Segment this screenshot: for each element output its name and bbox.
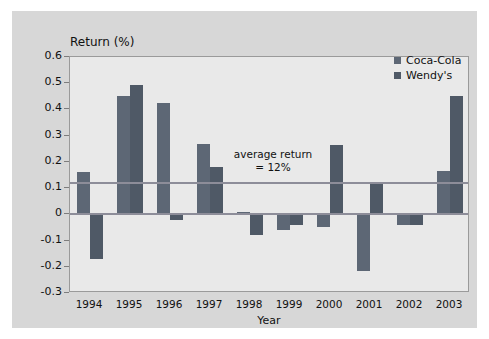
bar-coca-cola-2002	[397, 214, 410, 224]
y-axis-tick-label: -0.3	[18, 286, 62, 297]
x-axis-tick-label-1997: 1997	[189, 299, 229, 310]
bar-wendy-s-1997	[210, 167, 223, 214]
y-axis-tick-label-wrap: 0.5	[12, 76, 62, 87]
x-axis-tick-label-1996: 1996	[149, 299, 189, 310]
bar-wendy-s-1994	[90, 214, 103, 259]
legend-label: Coca-Cola	[406, 54, 461, 67]
bar-wendy-s-2003	[450, 96, 463, 214]
average-return-line	[70, 182, 468, 184]
y-axis-tick-label: 0.2	[18, 155, 62, 166]
legend-swatch-icon	[394, 57, 401, 64]
bar-wendy-s-1999	[290, 214, 303, 224]
y-axis-tick	[64, 292, 69, 293]
y-axis-tick-label-wrap: 0	[12, 207, 62, 218]
bar-coca-cola-1999	[277, 214, 290, 230]
plot-area	[70, 57, 468, 291]
bar-wendy-s-2000	[330, 145, 343, 214]
plot-frame	[69, 56, 469, 292]
annotation-line-1: average return	[220, 148, 326, 161]
y-axis-tick-label-wrap: -0.3	[12, 286, 62, 297]
y-axis-tick-label-wrap: -0.2	[12, 260, 62, 271]
y-axis-tick-label: 0	[18, 207, 62, 218]
bar-coca-cola-1995	[117, 96, 130, 214]
x-axis-tick-label-2003: 2003	[429, 299, 469, 310]
x-axis-tick-label-2001: 2001	[349, 299, 389, 310]
bar-wendy-s-1995	[130, 85, 143, 215]
x-axis-tick-label-1995: 1995	[109, 299, 149, 310]
zero-line	[70, 213, 468, 215]
bar-wendy-s-2001	[370, 183, 383, 214]
bar-wendy-s-2002	[410, 214, 423, 224]
x-axis-tick-label-2002: 2002	[389, 299, 429, 310]
x-axis-label: Year	[69, 314, 469, 327]
y-axis-label: Return (%)	[70, 35, 134, 49]
average-return-annotation: average return = 12%	[220, 148, 326, 174]
bar-coca-cola-1994	[77, 172, 90, 214]
bar-coca-cola-2000	[317, 214, 330, 227]
y-axis-tick-label-wrap: 0.3	[12, 129, 62, 140]
annotation-line-2: = 12%	[220, 161, 326, 174]
y-axis-tick-label-wrap: 0.6	[12, 50, 62, 61]
chart-legend: Coca-ColaWendy's	[394, 53, 461, 83]
legend-swatch-icon	[394, 72, 401, 79]
bar-coca-cola-1996	[157, 103, 170, 214]
chart-panel: Return (%) 0.60.50.40.30.20.10-0.1-0.2-0…	[12, 11, 477, 328]
y-axis-tick-label: -0.2	[18, 260, 62, 271]
x-axis-tick-label-1998: 1998	[229, 299, 269, 310]
y-axis-tick-label: -0.1	[18, 234, 62, 245]
y-axis-tick-label: 0.3	[18, 129, 62, 140]
chart-figure: Return (%) 0.60.50.40.30.20.10-0.1-0.2-0…	[0, 0, 489, 339]
x-axis-tick-label-1999: 1999	[269, 299, 309, 310]
x-axis-tick-label-1994: 1994	[69, 299, 109, 310]
legend-item: Wendy's	[394, 68, 461, 83]
y-axis-tick-label-wrap: 0.1	[12, 181, 62, 192]
y-axis-tick-label: 0.6	[18, 50, 62, 61]
bar-wendy-s-1998	[250, 214, 263, 235]
bar-coca-cola-2003	[437, 171, 450, 214]
y-axis-tick-label: 0.4	[18, 102, 62, 113]
x-axis-tick-label-2000: 2000	[309, 299, 349, 310]
bar-coca-cola-2001	[357, 214, 370, 270]
y-axis-tick-label-wrap: 0.4	[12, 102, 62, 113]
y-axis-tick-label-wrap: -0.1	[12, 234, 62, 245]
legend-label: Wendy's	[406, 69, 452, 82]
bar-coca-cola-1997	[197, 144, 210, 215]
legend-item: Coca-Cola	[394, 53, 461, 68]
y-axis-tick-label-wrap: 0.2	[12, 155, 62, 166]
y-axis-tick-label: 0.5	[18, 76, 62, 87]
y-axis-tick-label: 0.1	[18, 181, 62, 192]
